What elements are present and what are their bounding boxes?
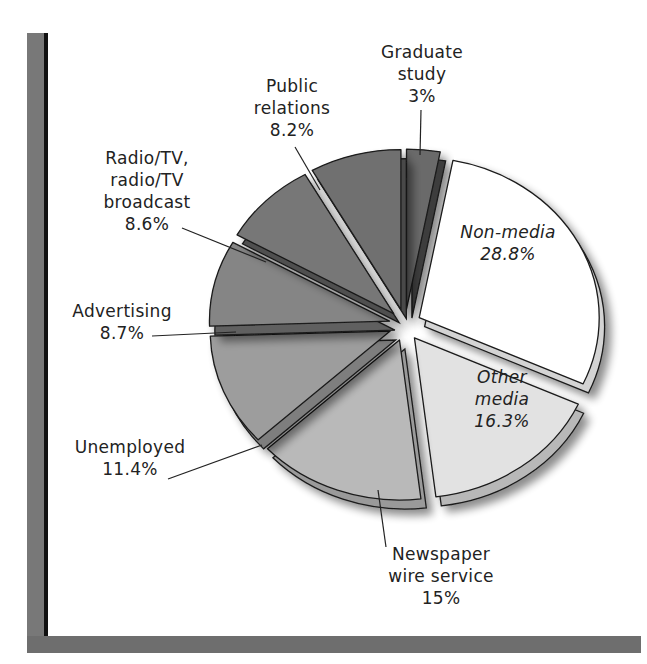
slice-label: Newspaperwire service15% [388,544,494,608]
leader-line [420,110,421,155]
pie-slices [209,149,604,509]
slice-label: Graduatestudy3% [381,42,463,106]
slice-label: Advertising8.7% [72,301,171,343]
slice-label: Unemployed11.4% [75,437,185,479]
slice-label: Othermedia16.3% [474,367,530,431]
slice-label: Publicrelations8.2% [254,76,330,140]
slice-label: Radio/TV,radio/TVbroadcast8.6% [103,148,190,234]
pie-chart: Graduatestudy3%Non-media28.8%Othermedia1… [0,0,647,664]
